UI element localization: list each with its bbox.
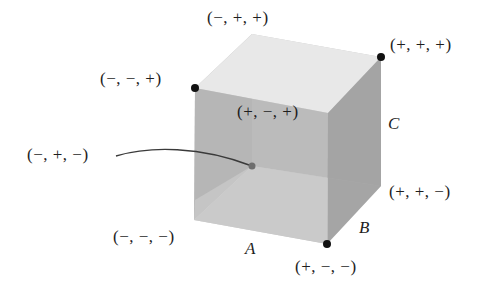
vertex-label-mmp: (−, −, +) — [100, 70, 162, 87]
vertex-dot-ppp — [377, 53, 385, 61]
vertex-label-pmm: (+, −, −) — [295, 258, 357, 275]
vertex-label-pmp: (+, −, +) — [237, 103, 299, 120]
vertex-label-mmm: (−, −, −) — [113, 228, 175, 245]
vertex-label-ppp: (+, +, +) — [390, 36, 452, 53]
vertex-label-ppm: (+, +, −) — [389, 183, 451, 200]
axis-label-b: B — [359, 219, 369, 236]
vertex-label-mpp: (−, +, +) — [207, 9, 269, 26]
axis-label-c: C — [388, 115, 399, 132]
vertex-label-mpm: (−, +, −) — [27, 146, 89, 163]
vertex-dot-pmm — [323, 240, 331, 248]
vertex-dot-mpm-hidden — [249, 163, 256, 170]
vertex-dot-mmp — [191, 84, 199, 92]
axis-label-a: A — [245, 240, 255, 257]
